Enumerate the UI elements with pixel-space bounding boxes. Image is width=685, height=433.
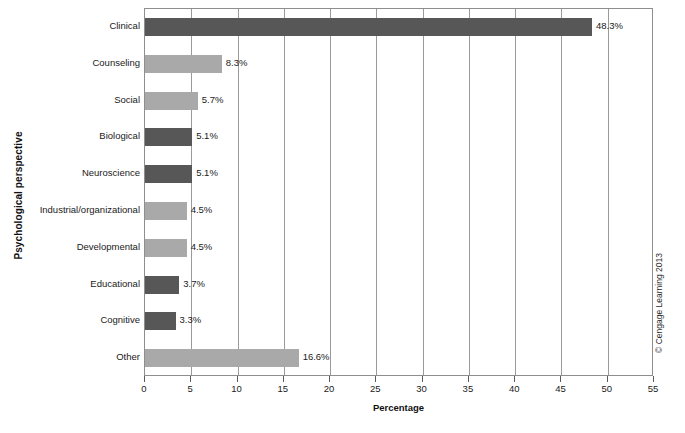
category-label: Clinical <box>0 20 140 32</box>
x-axis-tick-label: 30 <box>416 383 427 394</box>
x-axis-tick-label: 15 <box>278 383 289 394</box>
x-axis-tick-label: 55 <box>648 383 659 394</box>
bar[interactable] <box>145 165 192 183</box>
bar-row: 48.3% <box>145 9 654 46</box>
x-axis-tick-label: 10 <box>231 383 242 394</box>
x-axis-tick <box>329 376 330 382</box>
bar[interactable] <box>145 202 187 220</box>
bar-row: 3.3% <box>145 303 654 340</box>
bar-value-label: 4.5% <box>191 240 213 254</box>
x-axis-tick <box>144 376 145 382</box>
x-axis-tick <box>514 376 515 382</box>
bar[interactable] <box>145 312 176 330</box>
x-axis-tick <box>560 376 561 382</box>
bar[interactable] <box>145 276 179 294</box>
x-axis-tick-label: 35 <box>463 383 474 394</box>
bar-row: 5.1% <box>145 119 654 156</box>
bar-row: 4.5% <box>145 230 654 267</box>
category-label: Counseling <box>0 57 140 69</box>
bar-value-label: 4.5% <box>191 203 213 217</box>
x-axis-tick-label: 20 <box>324 383 335 394</box>
bar[interactable] <box>145 92 198 110</box>
x-axis-tick <box>468 376 469 382</box>
x-axis-tick <box>422 376 423 382</box>
category-label: Other <box>0 351 140 363</box>
x-axis-tick-label-group: 0510152025303540455055 <box>144 383 653 397</box>
bar-row: 5.1% <box>145 156 654 193</box>
bar-row: 5.7% <box>145 83 654 120</box>
category-label: Biological <box>0 130 140 142</box>
category-label: Developmental <box>0 241 140 253</box>
bar-chart-figure: Psychological perspective ClinicalCounse… <box>0 0 685 433</box>
x-axis-tick <box>283 376 284 382</box>
bar-row: 4.5% <box>145 193 654 230</box>
x-axis-title: Percentage <box>144 402 653 413</box>
bar-value-label: 16.6% <box>303 350 330 364</box>
category-label-group: ClinicalCounselingSocialBiologicalNeuros… <box>0 8 140 376</box>
bar-value-label: 5.1% <box>196 129 218 143</box>
plot-area: 48.3%8.3%5.7%5.1%5.1%4.5%4.5%3.7%3.3%16.… <box>144 8 653 376</box>
bar-value-label: 48.3% <box>596 19 623 33</box>
x-axis-tick <box>190 376 191 382</box>
bar-group: 48.3%8.3%5.7%5.1%5.1%4.5%4.5%3.7%3.3%16.… <box>145 9 652 375</box>
x-axis-tick-label: 0 <box>141 383 146 394</box>
category-label: Social <box>0 94 140 106</box>
bar[interactable] <box>145 128 192 146</box>
category-label: Cognitive <box>0 314 140 326</box>
bar-value-label: 5.1% <box>196 166 218 180</box>
bar-value-label: 3.3% <box>180 313 202 327</box>
x-axis-tick-label: 25 <box>370 383 381 394</box>
bar-value-label: 3.7% <box>183 277 205 291</box>
category-label: Industrial/organizational <box>0 204 140 216</box>
x-axis-tick-label: 45 <box>555 383 566 394</box>
bar-value-label: 5.7% <box>202 93 224 107</box>
category-label: Educational <box>0 278 140 290</box>
x-axis-tick <box>237 376 238 382</box>
bar[interactable] <box>145 18 592 36</box>
bar-row: 8.3% <box>145 46 654 83</box>
bar-row: 3.7% <box>145 267 654 304</box>
bar[interactable] <box>145 349 299 367</box>
x-axis-tick-label: 50 <box>601 383 612 394</box>
x-axis-tick-group <box>144 376 653 382</box>
copyright-notice: © Cengage Learning 2013 <box>654 228 664 378</box>
bar[interactable] <box>145 55 222 73</box>
category-label: Neuroscience <box>0 167 140 179</box>
bar[interactable] <box>145 239 187 257</box>
x-axis-tick-label: 40 <box>509 383 520 394</box>
bar-value-label: 8.3% <box>226 56 248 70</box>
x-axis-tick <box>375 376 376 382</box>
bar-row: 16.6% <box>145 340 654 377</box>
x-axis-tick <box>607 376 608 382</box>
x-axis-tick-label: 5 <box>188 383 193 394</box>
